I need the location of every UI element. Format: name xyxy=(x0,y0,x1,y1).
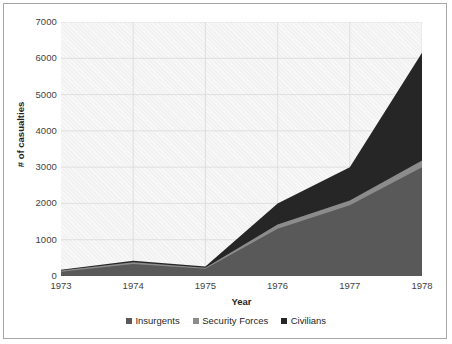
y-axis-ticks: 70006000500040003000200010000 xyxy=(4,4,57,294)
plot-area xyxy=(61,22,422,276)
stacked-area-plot xyxy=(61,22,422,276)
y-axis-tick-label: 1000 xyxy=(7,234,57,245)
x-axis-tick-label: 1973 xyxy=(34,280,88,291)
legend-swatch-icon xyxy=(126,318,132,324)
series-areas xyxy=(61,53,422,276)
x-axis-tick-label: 1974 xyxy=(106,280,160,291)
x-axis-ticks: 197319741975197619771978 xyxy=(61,280,422,296)
legend-swatch-icon xyxy=(193,318,199,324)
x-axis-tick-label: 1976 xyxy=(251,280,305,291)
x-axis-title: Year xyxy=(61,296,422,307)
y-axis-tick-label: 6000 xyxy=(7,52,57,63)
legend-item[interactable]: Civilians xyxy=(281,315,326,326)
y-axis-tick-label: 7000 xyxy=(7,16,57,27)
legend-swatch-icon xyxy=(281,318,287,324)
x-axis-tick-label: 1977 xyxy=(323,280,377,291)
legend-item-label: Security Forces xyxy=(202,315,268,326)
x-axis-tick-label: 1978 xyxy=(395,280,449,291)
legend-item[interactable]: Insurgents xyxy=(126,315,180,326)
legend-item-label: Insurgents xyxy=(135,315,179,326)
legend-item-label: Civilians xyxy=(291,315,326,326)
y-axis-title: # of casualties xyxy=(15,70,26,200)
chart-frame: 70006000500040003000200010000 # of casua… xyxy=(3,3,447,339)
chart-legend: InsurgentsSecurity ForcesCivilians xyxy=(4,315,448,326)
legend-item[interactable]: Security Forces xyxy=(193,315,269,326)
x-axis-tick-label: 1975 xyxy=(178,280,232,291)
